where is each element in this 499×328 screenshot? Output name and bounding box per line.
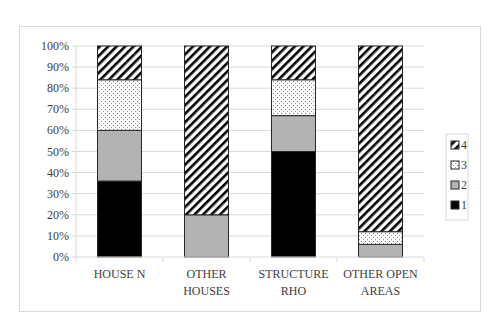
- segment-series-4: [272, 46, 316, 80]
- segment-series-2: [272, 116, 316, 152]
- x-category-label: RHO: [281, 284, 307, 298]
- y-tick-label: 10%: [47, 229, 69, 243]
- legend-swatch-3: [451, 161, 459, 169]
- segment-series-1: [98, 181, 142, 257]
- y-tick-label: 40%: [47, 166, 69, 180]
- bar-structure-rho: [272, 46, 316, 257]
- legend: 4321: [446, 134, 468, 220]
- segment-series-4: [185, 46, 229, 215]
- y-tick-label: 70%: [47, 102, 69, 116]
- stacked-percent-bar-chart: 0%10%20%30%40%50%60%70%80%90%100% HOUSE …: [0, 0, 499, 328]
- legend-swatch-2: [451, 181, 459, 189]
- bar-other-houses: [185, 46, 229, 257]
- y-tick-label: 0%: [53, 250, 69, 264]
- y-tick-label: 60%: [47, 123, 69, 137]
- legend-swatch-1: [451, 201, 459, 209]
- segment-series-3: [98, 80, 142, 131]
- legend-label-3: 3: [461, 158, 467, 172]
- segment-series-1: [272, 152, 316, 258]
- segment-series-2: [359, 244, 403, 257]
- y-tick-label: 100%: [41, 39, 69, 53]
- x-category-label: AREAS: [361, 284, 400, 298]
- segment-series-2: [185, 215, 229, 257]
- x-category-label: STRUCTURE: [258, 267, 328, 281]
- segment-series-4: [98, 46, 142, 80]
- y-tick-label: 80%: [47, 81, 69, 95]
- legend-swatch-4: [451, 141, 459, 149]
- y-tick-label: 90%: [47, 60, 69, 74]
- bar-other-open-areas: [359, 46, 403, 257]
- y-axis: 0%10%20%30%40%50%60%70%80%90%100%: [41, 39, 76, 264]
- legend-label-4: 4: [461, 138, 467, 152]
- segment-series-2: [98, 130, 142, 181]
- y-tick-label: 30%: [47, 187, 69, 201]
- segment-series-3: [272, 80, 316, 116]
- bar-house-n: [98, 46, 142, 257]
- x-axis: HOUSE NOTHERHOUSESSTRUCTURERHOOTHER OPEN…: [76, 257, 424, 298]
- x-category-label: OTHER: [187, 267, 227, 281]
- legend-label-2: 2: [461, 178, 467, 192]
- x-category-label: HOUSE N: [94, 267, 146, 281]
- y-tick-label: 20%: [47, 208, 69, 222]
- segment-series-3: [359, 232, 403, 245]
- x-category-label: OTHER OPEN: [343, 267, 418, 281]
- x-category-label: HOUSES: [183, 284, 230, 298]
- y-tick-label: 50%: [47, 145, 69, 159]
- segment-series-4: [359, 46, 403, 232]
- legend-label-1: 1: [461, 198, 467, 212]
